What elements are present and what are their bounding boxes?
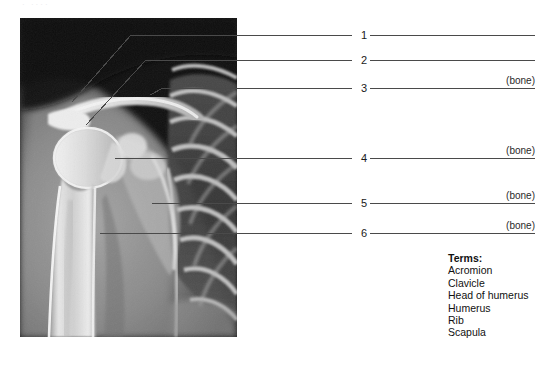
- label-number-3: 3: [358, 83, 370, 94]
- term-item-humerus[interactable]: Humerus: [448, 302, 529, 314]
- label-number-1: 1: [358, 30, 370, 41]
- answer-blank-4[interactable]: [370, 158, 535, 159]
- answer-blank-2[interactable]: [370, 60, 535, 61]
- term-item-head-of-humerus[interactable]: Head of humerus: [448, 289, 529, 301]
- terms-list: Acromion Clavicle Head of humerus Humeru…: [448, 264, 529, 338]
- term-item-acromion[interactable]: Acromion: [448, 264, 529, 276]
- term-item-scapula[interactable]: Scapula: [448, 326, 529, 338]
- label-number-2: 2: [358, 55, 370, 66]
- answer-blank-5[interactable]: [370, 203, 535, 204]
- label-number-4: 4: [358, 153, 370, 164]
- bone-tag-5: (bone): [370, 191, 535, 201]
- label-number-6: 6: [358, 228, 370, 239]
- bone-tag-4: (bone): [370, 146, 535, 156]
- answer-blank-1[interactable]: [370, 35, 535, 36]
- term-item-clavicle[interactable]: Clavicle: [448, 277, 529, 289]
- cropped-header-text: · ····: [22, 0, 142, 9]
- shoulder-radiograph-image: [20, 18, 237, 337]
- worksheet-page: · ····: [0, 0, 547, 365]
- bone-tag-6: (bone): [370, 221, 535, 231]
- term-item-rib[interactable]: Rib: [448, 314, 529, 326]
- bone-tag-3: (bone): [370, 76, 535, 86]
- terms-word-bank: Terms: Acromion Clavicle Head of humerus…: [448, 252, 529, 339]
- answer-blank-6[interactable]: [370, 233, 535, 234]
- terms-title: Terms:: [448, 252, 529, 264]
- answer-blank-3[interactable]: [370, 88, 535, 89]
- label-number-5: 5: [358, 198, 370, 209]
